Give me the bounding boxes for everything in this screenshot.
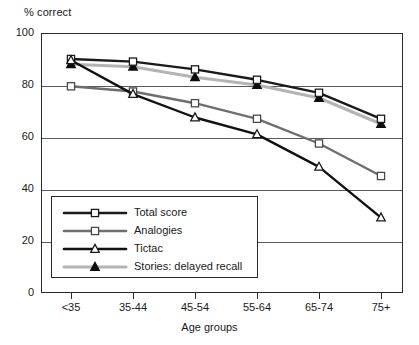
legend-swatch-open-square-icon (62, 224, 128, 238)
x-tick-label: 65-74 (289, 302, 349, 313)
x-tick-mark (71, 293, 72, 299)
x-axis-label: Age groups (0, 321, 419, 333)
legend: Total scoreAnalogiesTictacStories: delay… (51, 196, 258, 278)
legend-swatch-open-triangle-icon (62, 242, 128, 256)
legend-label: Total score (134, 207, 187, 218)
x-tick-mark (381, 293, 382, 299)
y-tick-label: 40 (0, 183, 34, 194)
legend-item: Analogies (52, 221, 257, 240)
legend-label: Tictac (134, 243, 163, 254)
legend-swatch-filled-triangle-icon (62, 260, 128, 274)
x-tick-mark (195, 293, 196, 299)
x-tick-label: <35 (41, 302, 101, 313)
y-tick-label: 80 (0, 79, 34, 90)
legend-swatch-open-square-icon (62, 206, 128, 220)
legend-item: Stories: delayed recall (52, 257, 257, 276)
x-tick-label: 55-64 (227, 302, 287, 313)
y-axis-label: % correct (24, 6, 71, 18)
gridline (42, 138, 402, 139)
y-tick-label: 60 (0, 131, 34, 142)
x-tick-label: 45-54 (165, 302, 225, 313)
y-tick-label: 0 (0, 287, 34, 298)
legend-item: Tictac (52, 239, 257, 258)
gridline (42, 190, 402, 191)
x-tick-label: 75+ (351, 302, 411, 313)
x-tick-mark (257, 293, 258, 299)
x-tick-mark (319, 293, 320, 299)
x-tick-label: 35-44 (103, 302, 163, 313)
y-tick-label: 20 (0, 235, 34, 246)
line-chart: % correct 020406080100 <3535-4445-5455-6… (0, 0, 419, 345)
y-tick-label: 100 (0, 27, 34, 38)
gridline (42, 86, 402, 87)
x-tick-mark (133, 293, 134, 299)
legend-label: Stories: delayed recall (134, 261, 242, 272)
legend-item: Total score (52, 203, 257, 222)
legend-label: Analogies (134, 225, 182, 236)
